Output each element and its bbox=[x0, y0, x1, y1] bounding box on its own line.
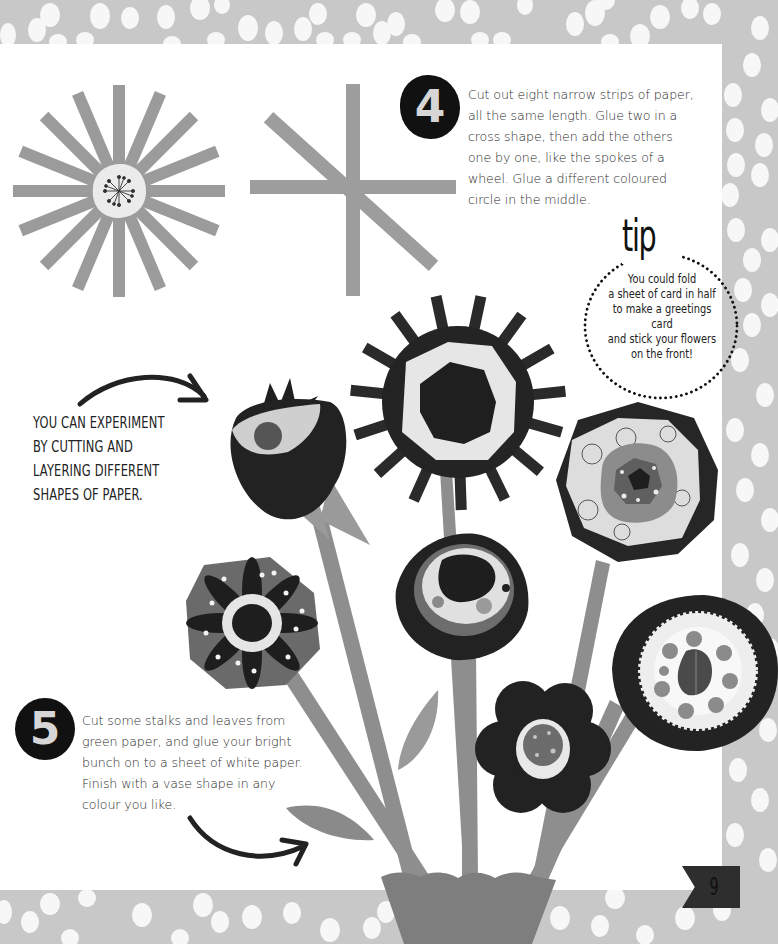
step-5-line: bunch on to a sheet of white paper. bbox=[82, 752, 322, 773]
step-5-line: Finish with a vase shape in any bbox=[82, 773, 322, 794]
note-line: BY CUTTING AND bbox=[33, 435, 165, 459]
step-5-badge: 5 bbox=[15, 698, 75, 760]
step-5-line: colour you like. bbox=[82, 794, 322, 815]
flower-octagon-star bbox=[186, 557, 320, 689]
flower-sun-rays bbox=[350, 295, 566, 510]
vase bbox=[381, 872, 556, 944]
step-5-line: green paper, and glue your bright bbox=[82, 731, 322, 752]
curved-arrow-bottom bbox=[190, 818, 304, 856]
experiment-note: YOU CAN EXPERIMENT BY CUTTING AND LAYERI… bbox=[33, 411, 165, 507]
step-5-number: 5 bbox=[30, 707, 61, 751]
note-line: SHAPES OF PAPER. bbox=[33, 483, 165, 507]
flower-scalloped-right bbox=[612, 595, 778, 751]
step-5-line: Cut some stalks and leaves from bbox=[82, 710, 322, 731]
note-line: LAYERING DIFFERENT bbox=[33, 459, 165, 483]
page-number: 9 bbox=[694, 866, 729, 908]
step-5-instructions: Cut some stalks and leaves from green pa… bbox=[82, 710, 322, 815]
flower-large-patterned bbox=[556, 402, 718, 562]
note-line: YOU CAN EXPERIMENT bbox=[33, 411, 165, 435]
flower-round-floral bbox=[396, 534, 529, 661]
